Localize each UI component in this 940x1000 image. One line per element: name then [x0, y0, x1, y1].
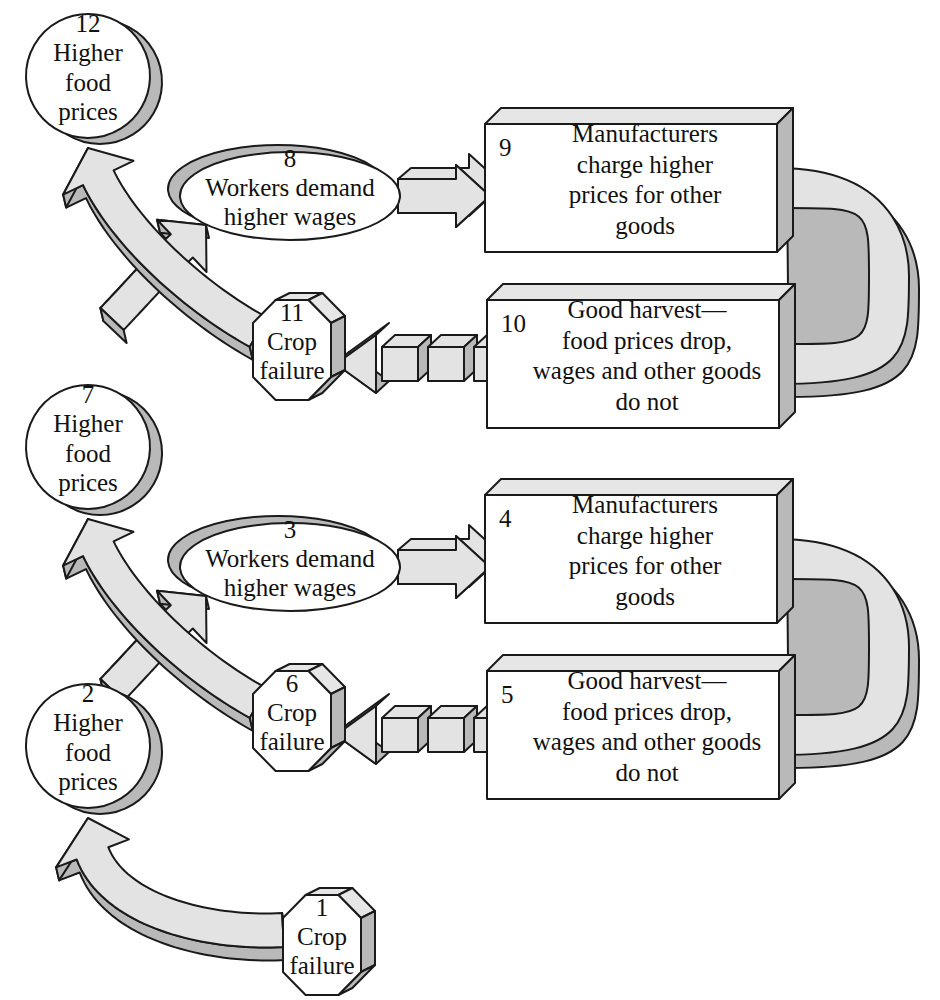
dash-block-face [428, 718, 464, 752]
node-label-line: Crop [297, 923, 347, 950]
arrow-top-face [56, 818, 284, 947]
node-label-line: prices for other [569, 552, 722, 579]
box-right-face [777, 479, 793, 623]
node-number: 5 [501, 681, 514, 708]
node-label-line: charge higher [577, 522, 714, 549]
node-label-line: Manufacturers [572, 491, 718, 518]
node-number: 11 [280, 299, 304, 326]
node-label-line: food prices drop, [562, 327, 732, 354]
node-number: 10 [501, 310, 526, 337]
box-right-face [777, 108, 793, 252]
hex-right-bevel [331, 687, 345, 748]
node-label-line: goods [615, 212, 675, 239]
node-label-line: prices [58, 469, 118, 496]
node-label-line: Higher [53, 410, 123, 437]
node-label-line: food prices drop, [562, 698, 732, 725]
node-label-line: do not [615, 759, 678, 786]
node-label-line: prices for other [569, 181, 722, 208]
node-label-line: food [65, 739, 111, 766]
node-1-hexagon[interactable]: 1Cropfailure [283, 888, 375, 995]
dash-block-face [428, 347, 464, 381]
node-label-line: failure [259, 357, 324, 384]
cycle-diagram-svg: 1Cropfailure2Higherfoodprices3Workers de… [0, 0, 940, 1000]
node-2-circle[interactable]: 2Higherfoodprices [26, 680, 162, 814]
dash-block-face [382, 347, 418, 381]
node-10-box[interactable]: 10Good harvest—food prices drop,wages an… [487, 284, 795, 428]
node-label-line: charge higher [577, 151, 714, 178]
node-number: 6 [286, 670, 299, 697]
node-label-line: failure [289, 952, 354, 979]
diagram-canvas: 1Cropfailure2Higherfoodprices3Workers de… [0, 0, 940, 1000]
node-label-line: Higher [53, 709, 123, 736]
hex-right-bevel [361, 911, 375, 972]
edge-9-to-10 [777, 168, 919, 397]
node-label-line: prices [58, 768, 118, 795]
node-label-line: Good harvest— [568, 296, 728, 323]
node-number: 4 [499, 505, 512, 532]
node-number: 1 [316, 894, 329, 921]
node-number: 3 [284, 516, 297, 543]
node-label-line: higher wages [224, 574, 357, 601]
node-label-line: Good harvest— [568, 667, 728, 694]
node-label-line: goods [615, 583, 675, 610]
edge-1-to-2 [56, 818, 287, 960]
node-5-box[interactable]: 5Good harvest—food prices drop,wages and… [487, 655, 795, 799]
box-right-face [779, 284, 795, 428]
node-label-line: Higher [53, 39, 123, 66]
node-label-line: Crop [267, 328, 317, 355]
node-number: 7 [82, 381, 95, 408]
box-right-face [779, 655, 795, 799]
node-label-line: prices [58, 98, 118, 125]
node-label-line: higher wages [224, 203, 357, 230]
node-number: 9 [499, 134, 512, 161]
node-label-line: food [65, 69, 111, 96]
node-11-hexagon[interactable]: 11Cropfailure [253, 293, 345, 400]
node-label-line: wages and other goods [533, 357, 761, 384]
node-label-line: Crop [267, 699, 317, 726]
node-12-circle[interactable]: 12Higherfoodprices [26, 10, 162, 144]
node-6-hexagon[interactable]: 6Cropfailure [253, 664, 345, 771]
node-number: 8 [284, 145, 297, 172]
node-label-line: failure [259, 728, 324, 755]
node-label-line: Workers demand [205, 545, 375, 572]
node-number: 2 [82, 680, 95, 707]
node-label-line: do not [615, 388, 678, 415]
nodes-layer: 1Cropfailure2Higherfoodprices3Workers de… [26, 10, 795, 995]
node-label-line: wages and other goods [533, 728, 761, 755]
node-label-line: Manufacturers [572, 120, 718, 147]
edge-4-to-5 [777, 539, 919, 768]
node-9-box[interactable]: 9Manufacturerscharge higherprices for ot… [485, 108, 793, 252]
hex-right-bevel [331, 316, 345, 377]
node-4-box[interactable]: 4Manufacturerscharge higherprices for ot… [485, 479, 793, 623]
node-number: 12 [76, 10, 101, 37]
node-label-line: Workers demand [205, 174, 375, 201]
dash-block-face [382, 718, 418, 752]
node-label-line: food [65, 440, 111, 467]
node-7-circle[interactable]: 7Higherfoodprices [26, 381, 162, 515]
